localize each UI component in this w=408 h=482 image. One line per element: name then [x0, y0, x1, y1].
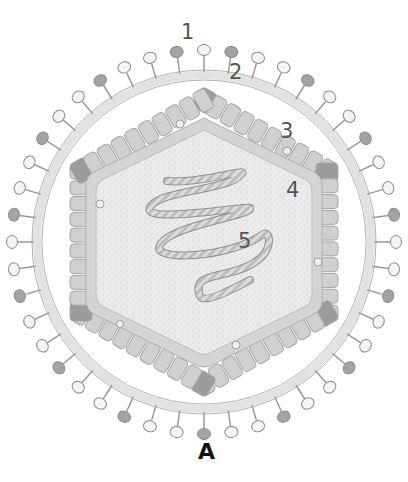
label-1: 1	[181, 22, 194, 43]
figure-caption: A	[198, 441, 215, 463]
virus-diagram	[0, 0, 408, 482]
label-2: 2	[229, 62, 242, 83]
label-5: 5	[238, 231, 251, 252]
label-4: 4	[286, 180, 299, 201]
label-3: 3	[280, 121, 293, 142]
